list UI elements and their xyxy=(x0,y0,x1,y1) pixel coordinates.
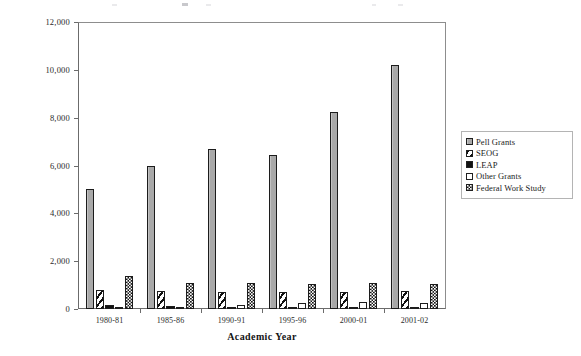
bar xyxy=(157,291,165,309)
bar-group xyxy=(262,22,323,309)
legend-item-label: SEOG xyxy=(476,148,499,158)
solid-gray-swatch xyxy=(466,138,473,145)
y-tick-label: 2,000 xyxy=(50,257,70,266)
legend-item-label: LEAP xyxy=(476,160,498,170)
x-tick-label: 2000-01 xyxy=(340,316,368,325)
x-axis: 1980-811985-861990-911995-962000-012001-… xyxy=(78,309,446,355)
x-axis-title: Academic Year xyxy=(78,331,446,342)
bar xyxy=(308,284,316,309)
x-tick-label: 1990-91 xyxy=(218,316,246,325)
bar xyxy=(96,290,104,309)
chart-legend: Pell GrantsSEOGLEAPOther GrantsFederal W… xyxy=(461,131,573,199)
bar xyxy=(369,283,377,309)
y-tick-label: 8,000 xyxy=(50,113,70,122)
x-tick-label: 1985-86 xyxy=(157,316,185,325)
bar-group xyxy=(384,22,445,309)
bar xyxy=(186,283,194,309)
x-tick-label: 2001-02 xyxy=(401,316,429,325)
bar xyxy=(401,291,409,309)
x-tick-mark xyxy=(201,309,202,313)
bar xyxy=(86,189,94,309)
y-tick-label: 10,000 xyxy=(45,66,70,75)
legend-item: Pell Grants xyxy=(466,136,568,147)
bar xyxy=(430,284,438,309)
scan-artifact xyxy=(182,3,188,6)
legend-item-label: Other Grants xyxy=(476,171,521,181)
bar-chart-figure: 12,000 10,000 8,000 6,000 4,000 2,000 0 … xyxy=(0,0,581,356)
bar-group xyxy=(140,22,201,309)
bar xyxy=(359,302,367,309)
empty-white-swatch xyxy=(466,173,473,180)
bar-group xyxy=(79,22,140,309)
legend-item: LEAP xyxy=(466,159,568,170)
legend-item-label: Federal Work Study xyxy=(476,183,546,193)
scan-artifact xyxy=(398,4,403,6)
x-tick-mark xyxy=(262,309,263,313)
legend-item: Other Grants xyxy=(466,171,568,182)
bar-group xyxy=(323,22,384,309)
y-tick-label: 12,000 xyxy=(45,18,70,27)
checkerboard-swatch xyxy=(466,184,473,191)
bar xyxy=(279,292,287,309)
solid-black-swatch xyxy=(466,161,473,168)
x-tick-mark xyxy=(140,309,141,313)
bar xyxy=(247,283,255,309)
y-axis: 12,000 10,000 8,000 6,000 4,000 2,000 0 xyxy=(0,0,78,320)
diagonal-hatch-swatch xyxy=(466,150,473,157)
legend-item: Federal Work Study xyxy=(466,182,568,193)
bar-group xyxy=(201,22,262,309)
bar xyxy=(218,292,226,309)
bar xyxy=(340,292,348,309)
x-tick-label: 1980-81 xyxy=(96,316,124,325)
bar xyxy=(125,276,133,309)
y-tick-label: 6,000 xyxy=(50,161,70,170)
y-tick-label: 0 xyxy=(66,305,70,314)
x-tick-mark xyxy=(323,309,324,313)
bar xyxy=(391,65,399,309)
bar xyxy=(147,166,155,310)
bar xyxy=(330,112,338,309)
legend-item: SEOG xyxy=(466,148,568,159)
legend-item-label: Pell Grants xyxy=(476,137,515,147)
scan-artifact xyxy=(112,4,117,6)
bar xyxy=(269,155,277,309)
bars-layer xyxy=(79,22,445,309)
x-tick-label: 1995-96 xyxy=(279,316,307,325)
scan-artifact xyxy=(206,4,211,6)
bar xyxy=(208,149,216,309)
y-tick-label: 4,000 xyxy=(50,209,70,218)
scan-artifact xyxy=(372,4,376,6)
x-tick-mark xyxy=(384,309,385,313)
